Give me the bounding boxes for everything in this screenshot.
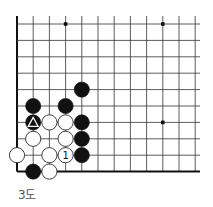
black-stone-icon [74, 131, 89, 146]
black-stone-icon [58, 98, 73, 113]
black-stone [26, 115, 41, 130]
black-stone [26, 164, 41, 179]
black-stone-icon [26, 98, 41, 113]
go-board-diagram: 1 [0, 0, 213, 207]
black-stone-icon [74, 148, 89, 163]
move-number-label: 1 [62, 150, 68, 161]
black-stone [74, 115, 89, 130]
star-point-icon [64, 22, 68, 26]
black-stone [26, 98, 41, 113]
black-stone-icon [74, 115, 89, 130]
board-grid [17, 16, 200, 172]
white-stone [58, 131, 73, 146]
white-stone: 1 [58, 148, 73, 163]
white-stone-icon [58, 131, 73, 146]
white-stone [42, 115, 57, 130]
black-stone [74, 131, 89, 146]
white-stone [42, 164, 57, 179]
white-stone [26, 131, 41, 146]
black-stone [74, 148, 89, 163]
diagram-caption: 3도 [18, 185, 36, 202]
white-stone [42, 148, 57, 163]
white-stone-icon [26, 131, 41, 146]
black-stone [58, 98, 73, 113]
black-stone-icon [26, 164, 41, 179]
white-stone-icon [42, 115, 57, 130]
white-stone-icon [42, 148, 57, 163]
star-point-icon [161, 22, 165, 26]
black-stone-icon [74, 82, 89, 97]
white-stone-icon [42, 164, 57, 179]
white-stone-icon [9, 148, 24, 163]
star-point-icon [161, 121, 165, 125]
white-stone-icon [58, 115, 73, 130]
white-stone [9, 148, 24, 163]
black-stone [74, 82, 89, 97]
white-stone [58, 115, 73, 130]
